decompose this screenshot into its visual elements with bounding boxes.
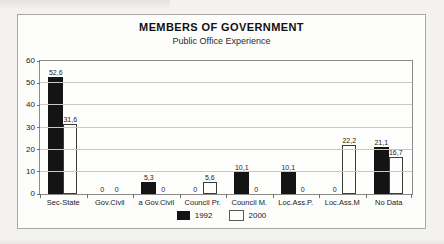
x-axis-tick [366, 194, 367, 198]
bar-1992 [281, 172, 296, 194]
scan-artifact-bottom [0, 239, 444, 244]
bar-column-1992: 10,1 [234, 172, 249, 194]
bar-value-label: 5,3 [144, 174, 154, 181]
bar-value-label: 0 [115, 186, 119, 193]
bar-value-label: 21,1 [374, 139, 388, 146]
bar-value-label: 0 [193, 186, 197, 193]
y-axis-label: 0 [31, 190, 35, 198]
category-cell: 21,116,7No Data [366, 61, 413, 194]
bar-1992 [234, 172, 249, 194]
bar-value-label: 0 [100, 186, 104, 193]
bar-value-label: 10,1 [235, 164, 249, 171]
x-axis-label: Council Pr. [185, 199, 221, 207]
bar-value-label: 0 [301, 186, 305, 193]
y-axis-label: 10 [26, 168, 35, 176]
y-axis-tick [37, 171, 40, 172]
x-axis-label: Council M. [232, 199, 267, 207]
y-axis-label: 40 [26, 101, 35, 109]
bar-value-label: 5,6 [205, 174, 215, 181]
x-axis-label: Loc.Ass.M [325, 199, 360, 207]
chart-title: MEMBERS OF GOVERNMENT [18, 21, 425, 33]
y-axis-tick [37, 105, 40, 106]
legend-item-1992: 1992 [177, 211, 213, 220]
legend-swatch-2000 [229, 210, 244, 221]
bar-value-label: 0 [254, 186, 258, 193]
x-axis-label: No Data [375, 199, 403, 207]
y-axis-label: 60 [26, 57, 35, 65]
bar-value-label: 52,6 [49, 69, 63, 76]
y-axis-tick [37, 83, 40, 84]
category-cell: 10,10Loc.Ass.P. [273, 61, 320, 194]
bar-value-label: 31,6 [63, 116, 77, 123]
chart-subtitle: Public Office Experience [18, 36, 425, 46]
y-axis-tick [37, 149, 40, 150]
legend: 19922000 [18, 210, 425, 221]
category-cells: 52,631,6Sec-State00Gov.Civil5,30a Gov.Ci… [40, 61, 412, 194]
legend-label-1992: 1992 [195, 212, 213, 220]
x-axis-label: Loc.Ass.P. [278, 199, 313, 207]
gridline-10 [40, 171, 412, 172]
bar-1992 [48, 77, 63, 194]
bar-2000 [63, 124, 77, 194]
bar-column-1992: 5,3 [141, 182, 156, 194]
x-axis-tick [40, 194, 41, 198]
bar-column-2000: 31,6 [63, 124, 77, 194]
bar-column-1992: 10,1 [281, 172, 296, 194]
gridline-20 [40, 149, 412, 150]
gridline-30 [40, 127, 412, 128]
x-axis-tick [319, 194, 320, 198]
x-axis-label: a Gov.Civil [138, 199, 174, 207]
category-cell: 00Gov.Civil [87, 61, 134, 194]
x-axis-tick [226, 194, 227, 198]
bar-value-label: 22,2 [342, 137, 356, 144]
y-axis-label: 30 [26, 124, 35, 132]
y-axis-label: 50 [26, 79, 35, 87]
bar-column-2000: 16,7 [389, 157, 403, 194]
x-axis-tick [87, 194, 88, 198]
x-axis-label: Gov.Civil [95, 199, 124, 207]
chart-frame: MEMBERS OF GOVERNMENT Public Office Expe… [17, 14, 426, 229]
legend-label-2000: 2000 [249, 212, 267, 220]
x-axis-tick [180, 194, 181, 198]
category-cell: 52,631,6Sec-State [40, 61, 87, 194]
bar-2000 [342, 145, 356, 194]
scan-artifact-top [0, 0, 170, 9]
x-axis-label: Sec-State [47, 199, 80, 207]
bar-column-1992: 52,6 [48, 77, 63, 194]
bar-value-label: 0 [161, 186, 165, 193]
bar-2000 [203, 182, 217, 194]
x-axis-tick [273, 194, 274, 198]
gridline-50 [40, 82, 412, 83]
category-cell: 10,10Council M. [226, 61, 273, 194]
bar-value-label: 10,1 [281, 164, 295, 171]
y-axis-tick [37, 61, 40, 62]
legend-item-2000: 2000 [229, 210, 267, 221]
plot-area: 52,631,6Sec-State00Gov.Civil5,30a Gov.Ci… [39, 60, 413, 195]
bar-1992 [141, 182, 156, 194]
bar-column-2000: 22,2 [342, 145, 356, 194]
legend-swatch-1992 [177, 211, 190, 220]
category-cell: 022,2Loc.Ass.M [319, 61, 366, 194]
x-axis-tick [411, 194, 412, 198]
y-axis-label: 20 [26, 146, 35, 154]
category-cell: 05,6Council Pr. [180, 61, 227, 194]
bar-column-2000: 5,6 [203, 182, 217, 194]
x-axis-tick [133, 194, 134, 198]
bar-2000 [389, 157, 403, 194]
category-cell: 5,30a Gov.Civil [133, 61, 180, 194]
y-axis-tick [37, 127, 40, 128]
gridline-40 [40, 104, 412, 105]
bar-value-label: 16,7 [389, 149, 403, 156]
bar-value-label: 0 [333, 186, 337, 193]
